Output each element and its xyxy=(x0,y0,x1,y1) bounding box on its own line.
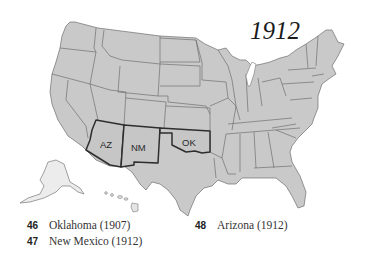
legend-label: Oklahoma (1907) xyxy=(49,219,130,231)
us-mainland-outline xyxy=(50,22,344,216)
legend-label: New Mexico (1912) xyxy=(49,235,142,247)
legend-number: 47 xyxy=(27,236,49,247)
map-title-year: 1912 xyxy=(250,17,300,45)
legend-number: 46 xyxy=(27,220,49,231)
legend-item-47: 47 New Mexico (1912) xyxy=(27,235,142,247)
us-map: AZ NM OK xyxy=(0,0,366,255)
legend-number: 48 xyxy=(195,220,217,231)
label-az: AZ xyxy=(100,139,112,150)
alaska xyxy=(20,160,84,203)
hawaii xyxy=(105,192,138,212)
legend-label: Arizona (1912) xyxy=(217,219,288,231)
legend-item-46: 46 Oklahoma (1907) xyxy=(27,219,130,231)
label-nm: NM xyxy=(131,142,146,153)
legend-item-48: 48 Arizona (1912) xyxy=(195,219,288,231)
label-ok: OK xyxy=(182,137,196,148)
